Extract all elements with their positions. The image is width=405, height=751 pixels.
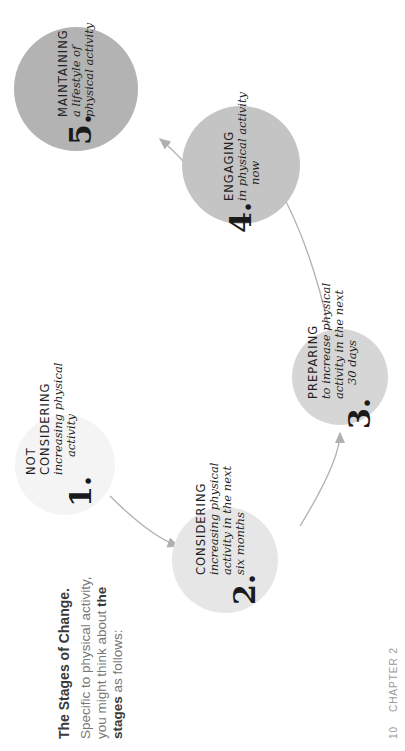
stage-3-text: PREPARING to increase physical activity … [306,283,359,399]
stage-5-number: 5. [66,114,96,145]
stage-3-number: 3. [345,398,375,429]
stage-4-number: 4. [226,202,256,233]
stage-1-title-line-2: CONSIDERING [38,362,52,475]
document-page: The Stages of Change. Specific to physic… [0,0,405,751]
stage-4-text: ENGAGING in physical activity now [222,92,262,201]
page-number: 10 [388,726,399,739]
stage-5-desc-line-2: physical activity [83,23,96,117]
stage-2-number: 2. [230,574,260,605]
stage-1-desc-line-2: activity [65,362,78,475]
stage-1-number: 1. [66,476,96,507]
stage-4-title: ENGAGING [222,92,236,201]
stage-1-text: NOT CONSIDERING increasing physical acti… [24,362,78,475]
stage-1-title-line-1: NOT [24,362,38,475]
stage-3-title: PREPARING [306,283,320,399]
stage-4-desc-line-2: now [249,92,262,201]
stage-2-desc-line-3: six months [234,462,247,575]
stage-2-title: CONSIDERING [194,462,208,575]
stage-5-title: MAINTAINING [56,23,70,117]
stage-5-text: MAINTAINING a lifestyle of physical acti… [56,23,96,117]
stage-3-desc-line-3: 30 days [346,283,359,399]
page-footer: 10 CHAPTER 2 [388,637,399,739]
arrow-2-to-3 [300,433,340,526]
arrow-1-to-2 [110,496,178,546]
chapter-label: CHAPTER 2 [388,647,399,712]
stage-2-text: CONSIDERING increasing physical activity… [194,462,247,575]
